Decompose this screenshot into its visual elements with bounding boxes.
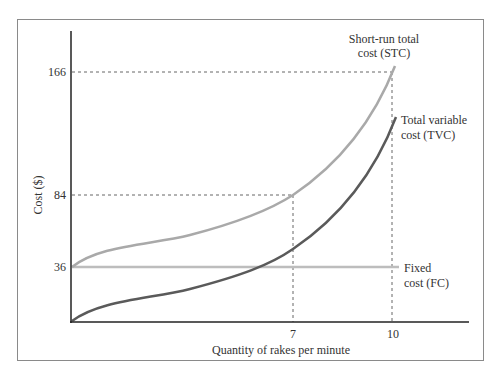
fc-label-line2: cost (FC)	[404, 276, 449, 290]
xtick-10: 10	[387, 327, 399, 341]
ytick-36: 36	[54, 260, 66, 274]
x-axis-title: Quantity of rakes per minute	[212, 343, 350, 357]
stc-curve	[72, 66, 395, 267]
ytick-166: 166	[48, 65, 66, 79]
stc-label-line2: cost (STC)	[358, 46, 410, 60]
cost-chart: 166 84 36 7 10 Quantity of rakes per min…	[0, 0, 495, 377]
fc-label-line1: Fixed	[404, 261, 431, 275]
tvc-label-line1: Total variable	[401, 113, 467, 127]
xtick-7: 7	[290, 327, 296, 341]
stc-label-line1: Short-run total	[349, 32, 420, 46]
tvc-label-line2: cost (TVC)	[401, 128, 455, 142]
ytick-84: 84	[54, 188, 66, 202]
y-axis-title: Cost ($)	[31, 175, 45, 214]
reference-lines	[72, 72, 392, 322]
